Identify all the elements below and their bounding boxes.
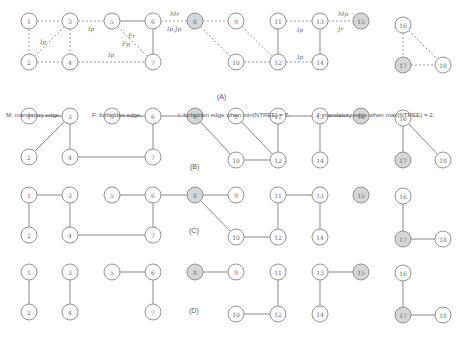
node-17: 17 (395, 307, 411, 323)
panel-label-b: (B) (190, 163, 199, 171)
edge-label: Fr (127, 32, 136, 39)
node-3: 3 (62, 264, 78, 280)
edge-3-2 (35, 122, 65, 152)
svg-text:4: 4 (68, 59, 72, 66)
svg-text:18: 18 (439, 62, 447, 69)
node-18: 18 (435, 307, 451, 323)
svg-text:8: 8 (193, 192, 197, 199)
svg-text:17: 17 (399, 236, 407, 243)
svg-text:15: 15 (357, 192, 365, 199)
svg-text:14: 14 (316, 59, 324, 66)
node-13: 13 (312, 264, 328, 280)
node-8: 8 (187, 13, 203, 29)
svg-text:12: 12 (274, 59, 282, 66)
node-18: 18 (435, 231, 451, 247)
node-14: 14 (312, 54, 328, 70)
edge-label: Ip (87, 25, 94, 33)
node-8: 8 (187, 264, 203, 280)
node-13: 13 (312, 13, 328, 29)
node-6: 6 (145, 108, 161, 124)
node-4: 4 (62, 227, 78, 243)
svg-text:2: 2 (27, 59, 31, 66)
node-16: 16 (395, 265, 411, 281)
svg-text:14: 14 (316, 157, 324, 164)
svg-text:3: 3 (68, 269, 72, 276)
node-6: 6 (145, 264, 161, 280)
node-14: 14 (312, 306, 328, 322)
node-10: 10 (228, 306, 244, 322)
svg-text:12: 12 (274, 234, 282, 241)
node-15: 15 (353, 13, 369, 29)
edge-label: Ip Jp (166, 25, 182, 33)
node-5: 5 (104, 13, 120, 29)
edge-label: Ip (296, 53, 303, 61)
edge-label: Jr (336, 25, 344, 33)
svg-text:18: 18 (439, 312, 447, 319)
edge-8-10 (200, 122, 230, 154)
svg-text:2: 2 (27, 154, 31, 161)
svg-text:10: 10 (232, 59, 240, 66)
svg-text:16: 16 (399, 193, 407, 200)
svg-text:14: 14 (316, 234, 324, 241)
node-10: 10 (228, 229, 244, 245)
svg-text:11: 11 (274, 192, 282, 199)
svg-text:1: 1 (27, 192, 31, 199)
svg-text:5: 5 (110, 18, 114, 25)
edge-9-12 (242, 122, 273, 154)
node-7: 7 (145, 227, 161, 243)
node-12: 12 (270, 229, 286, 245)
panel-label-d: (D) (189, 307, 199, 315)
svg-text:5: 5 (110, 192, 114, 199)
svg-text:18: 18 (439, 236, 447, 243)
node-1: 1 (21, 264, 37, 280)
node-2: 2 (21, 54, 37, 70)
svg-text:13: 13 (316, 18, 324, 25)
edge-16-18 (409, 31, 438, 60)
svg-text:6: 6 (151, 192, 155, 199)
node-8: 8 (187, 187, 203, 203)
graph-d: 123456789101112131415161718 (21, 264, 451, 323)
node-11: 11 (270, 13, 286, 29)
node-4: 4 (62, 304, 78, 320)
panel-label-a: (A) (217, 93, 226, 101)
svg-text:1: 1 (27, 269, 31, 276)
svg-text:10: 10 (232, 234, 240, 241)
svg-text:3: 3 (68, 18, 72, 25)
node-17: 17 (395, 152, 411, 168)
svg-text:2: 2 (27, 232, 31, 239)
edge-label: Ip (296, 26, 303, 34)
svg-text:4: 4 (68, 232, 72, 239)
svg-text:10: 10 (232, 157, 240, 164)
svg-text:4: 4 (68, 154, 72, 161)
svg-text:18: 18 (439, 157, 447, 164)
node-15: 15 (353, 187, 369, 203)
svg-text:12: 12 (274, 157, 282, 164)
edge-label: Fp (121, 40, 130, 48)
node-6: 6 (145, 187, 161, 203)
legend-mandatory-when: J: mandatory edge when max(NTREE) = 2. (316, 111, 434, 118)
panel-label-c: (C) (189, 227, 199, 235)
node-12: 12 (270, 152, 286, 168)
node-6: 6 (145, 13, 161, 29)
node-7: 7 (145, 149, 161, 165)
svg-text:15: 15 (357, 18, 365, 25)
graph-a: IpIpFrFpIpMrIp JpIpIpMpJr123456789101112… (21, 10, 451, 73)
node-12: 12 (270, 54, 286, 70)
node-4: 4 (62, 54, 78, 70)
edge-9-12 (242, 27, 273, 57)
svg-text:17: 17 (399, 312, 407, 319)
graph-c: 123456789101112131415161718 (21, 187, 451, 247)
legend-forbidden: F: forbidden edge. (92, 111, 142, 118)
node-15: 15 (353, 264, 369, 280)
node-5: 5 (104, 264, 120, 280)
svg-text:3: 3 (68, 113, 72, 120)
svg-text:5: 5 (110, 269, 114, 276)
node-13: 13 (312, 187, 328, 203)
svg-text:7: 7 (151, 309, 155, 316)
node-9: 9 (228, 264, 244, 280)
svg-text:2: 2 (27, 309, 31, 316)
node-14: 14 (312, 229, 328, 245)
node-3: 3 (62, 13, 78, 29)
node-2: 2 (21, 304, 37, 320)
legend-mandatory: M: mandatory edge. (6, 111, 61, 118)
